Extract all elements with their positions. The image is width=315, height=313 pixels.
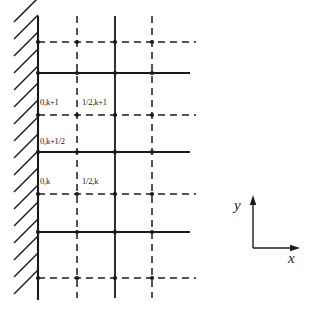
label-half-k-plus-1: 1/2,k+1 [82, 98, 107, 107]
dashed-grid-rows [38, 42, 196, 278]
grid-nodes [36, 40, 154, 280]
grid-node [75, 276, 79, 280]
grid-node [36, 113, 40, 117]
grid-node [36, 230, 40, 234]
figure-root: 0,k+11/2,k+10,k+1/20,k1/2,k y x [0, 0, 315, 313]
label-0-k-plus-half: 0,k+1/2 [40, 137, 65, 146]
grid-node [150, 40, 154, 44]
grid-node [75, 71, 79, 75]
axis-y-label: y [234, 198, 241, 213]
grid-node [36, 276, 40, 280]
grid-node [150, 150, 154, 154]
grid-node [113, 113, 117, 117]
grid-node [36, 71, 40, 75]
grid-node [113, 230, 117, 234]
label-half-k: 1/2,k [82, 177, 98, 186]
coordinate-axes-glyph [250, 195, 300, 251]
label-0-k-plus-1: 0,k+1 [40, 98, 59, 107]
grid-node [113, 71, 117, 75]
axis-y-arrowhead [250, 195, 256, 205]
grid-node [150, 71, 154, 75]
axis-x-label: x [288, 251, 295, 266]
grid-node [150, 230, 154, 234]
grid-node [113, 40, 117, 44]
grid-diagram-canvas [0, 0, 315, 313]
grid-node [150, 276, 154, 280]
grid-node [150, 192, 154, 196]
grid-node [75, 150, 79, 154]
grid-node [113, 192, 117, 196]
grid-node [36, 40, 40, 44]
grid-node [113, 276, 117, 280]
grid-node [75, 40, 79, 44]
grid-node [75, 192, 79, 196]
grid-node [36, 150, 40, 154]
wall-hatching [14, 0, 38, 294]
grid-node [36, 192, 40, 196]
grid-node [75, 113, 79, 117]
grid-node [150, 113, 154, 117]
label-0-k: 0,k [40, 177, 50, 186]
grid-node [75, 230, 79, 234]
grid-node [113, 150, 117, 154]
